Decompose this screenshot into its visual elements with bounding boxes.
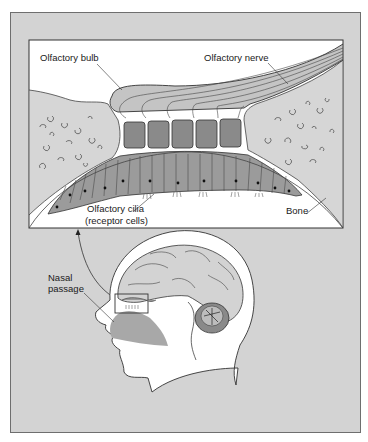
label-nasal-passage-line2: passage [48, 283, 84, 294]
label-olfactory-cilia-line2: (receptor cells) [85, 215, 148, 226]
label-olfactory-nerve: Olfactory nerve [204, 52, 268, 63]
label-nasal-passage-line1: Nasal [48, 272, 72, 283]
olfactory-diagram: Olfactory bulb Olfactory nerve Olfactory… [0, 0, 368, 442]
label-bone: Bone [286, 205, 308, 216]
inset-magnified-view: Olfactory bulb Olfactory nerve Olfactory… [29, 40, 343, 228]
head-illustration: Nasal passage [48, 231, 254, 392]
glomeruli [124, 119, 241, 148]
label-olfactory-bulb: Olfactory bulb [40, 52, 99, 63]
label-olfactory-cilia-line1: Olfactory cilia [87, 203, 145, 214]
arrow-head-icon [76, 229, 81, 235]
